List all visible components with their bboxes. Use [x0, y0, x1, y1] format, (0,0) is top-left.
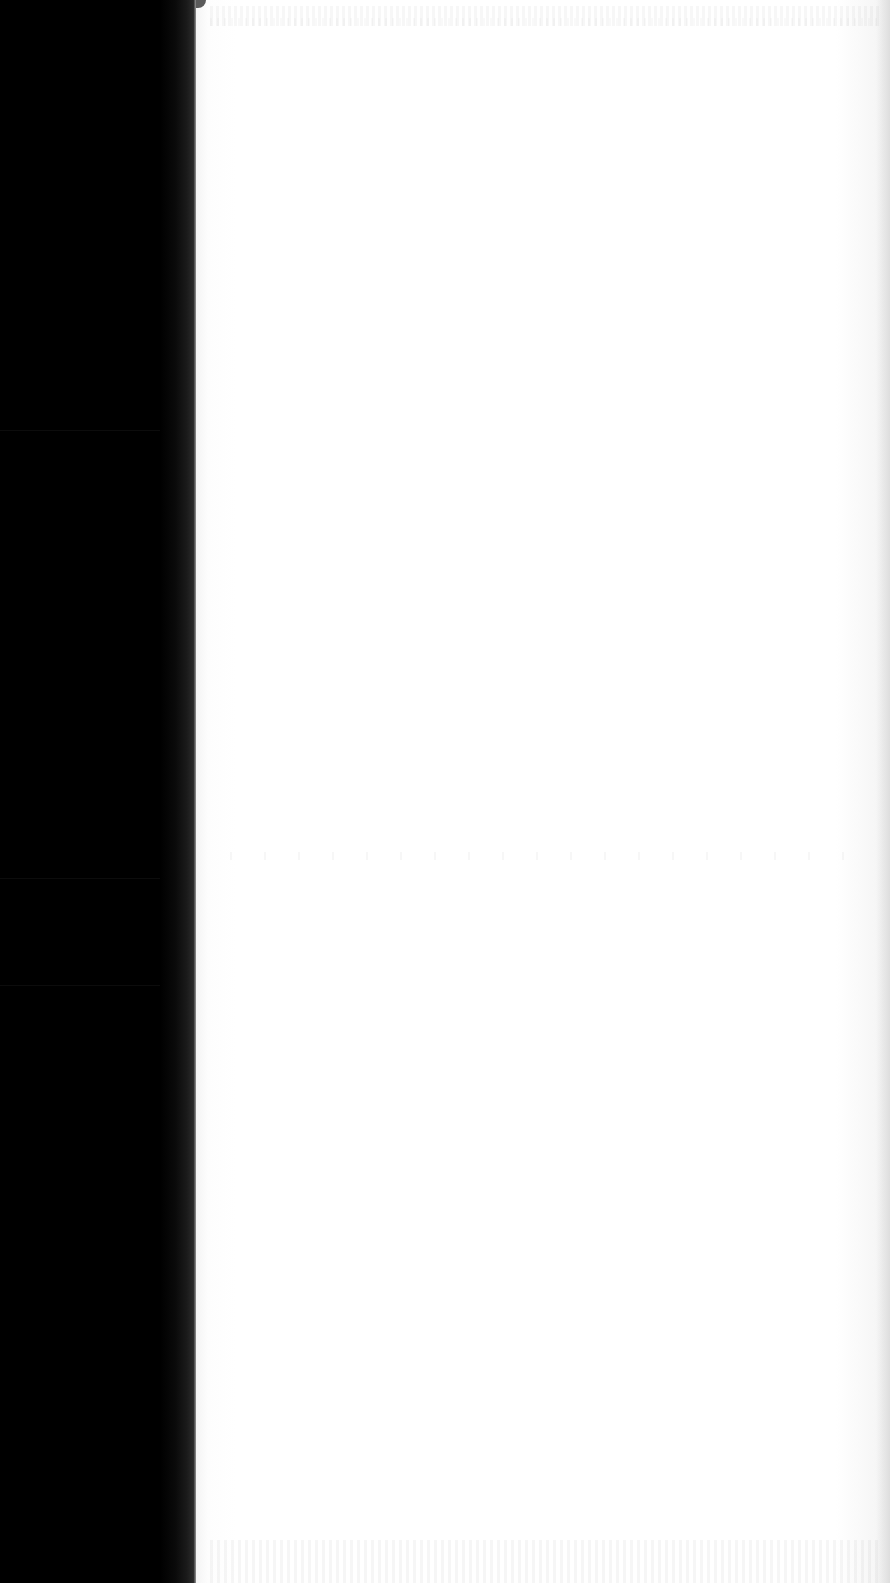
bleed-through-text-top-line2	[210, 18, 880, 26]
page-edge-shadow	[160, 0, 198, 1583]
blank-page	[196, 0, 890, 1583]
scanner-bed-separator-line	[0, 878, 165, 879]
scanned-document	[0, 0, 890, 1583]
bleed-through-marks-middle	[230, 852, 870, 860]
right-edge-vignette	[876, 0, 890, 1583]
scanner-bed-separator-line	[0, 985, 165, 986]
bleed-through-text-bottom	[210, 1540, 880, 1583]
scanner-bed-separator-line	[0, 430, 165, 431]
